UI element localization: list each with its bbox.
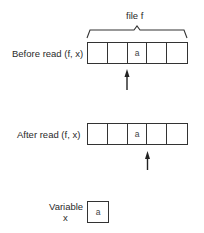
variable-box: a (87, 201, 109, 223)
file-cell (167, 124, 187, 144)
file-cell: a (128, 43, 148, 63)
variable-label: Variable (49, 201, 83, 212)
file-cell (108, 43, 128, 63)
diagram-graphics (0, 0, 204, 233)
file-cells-before: a (87, 42, 188, 64)
pointer-arrow-after (145, 151, 150, 170)
file-brace (87, 26, 187, 38)
file-cell (167, 43, 187, 63)
pointer-arrow-before (125, 69, 130, 90)
file-cell (88, 124, 108, 144)
file-cell (108, 124, 128, 144)
variable-name-label: x (63, 212, 68, 223)
after-read-label: After read (f, x) (17, 129, 80, 140)
before-read-label: Before read (f, x) (12, 48, 83, 59)
file-label: file f (126, 10, 143, 21)
file-cell (147, 43, 167, 63)
file-cell (147, 124, 167, 144)
file-cell (88, 43, 108, 63)
file-cells-after: a (87, 123, 188, 145)
file-cell: a (128, 124, 148, 144)
